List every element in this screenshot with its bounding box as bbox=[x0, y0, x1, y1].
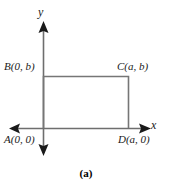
figure-caption: (a) bbox=[0, 168, 172, 179]
rectangle-abcd bbox=[44, 77, 129, 129]
coordinate-plane-graphic bbox=[0, 0, 172, 190]
point-label-b: B(0, b) bbox=[4, 61, 35, 72]
point-label-a: A(0, 0) bbox=[4, 134, 35, 145]
point-label-d: D(a, 0) bbox=[118, 134, 150, 145]
figure-coordinate-rectangle: y x B(0, b) C(a, b) A(0, 0) D(a, 0) (a) bbox=[0, 0, 172, 190]
y-axis-label: y bbox=[38, 6, 43, 18]
x-axis-label: x bbox=[151, 119, 156, 131]
point-label-c: C(a, b) bbox=[117, 61, 148, 72]
